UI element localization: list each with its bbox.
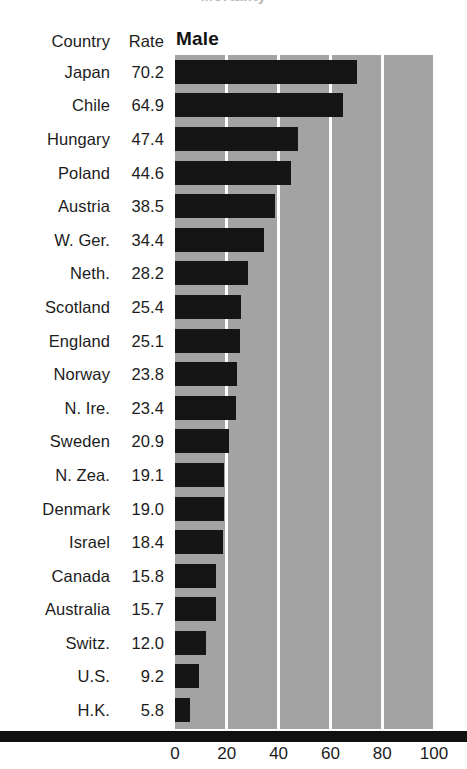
- row-rate-value: 5.8: [114, 701, 164, 720]
- row-country-label: Norway: [53, 365, 110, 384]
- row-country-label: Hungary: [47, 129, 110, 148]
- bar-slot: [175, 525, 434, 559]
- row-country-label: Denmark: [42, 499, 110, 518]
- bar: [175, 329, 240, 353]
- column-header-rate: Rate: [114, 31, 164, 50]
- clipped-title: Mortality: [0, 0, 467, 9]
- bar: [175, 60, 357, 84]
- table-row: Neth.28.2: [0, 257, 168, 291]
- x-tick-label-40: 40: [269, 744, 288, 764]
- table-row: Scotland25.4: [0, 290, 168, 324]
- table-row: N. Zea.19.1: [0, 458, 168, 492]
- row-rate-value: 12.0: [114, 633, 164, 652]
- axis-rule: [0, 731, 467, 742]
- bar: [175, 228, 264, 252]
- row-rate-value: 25.1: [114, 331, 164, 350]
- table-row: Norway23.8: [0, 357, 168, 391]
- table-row: Poland44.6: [0, 156, 168, 190]
- row-rate-value: 9.2: [114, 667, 164, 686]
- table-row: Australia15.7: [0, 593, 168, 627]
- bar: [175, 396, 236, 420]
- clipped-title-text: Mortality: [0, 0, 467, 4]
- row-rate-value: 38.5: [114, 197, 164, 216]
- x-tick-label-0: 0: [170, 744, 179, 764]
- table-row: Chile64.9: [0, 89, 168, 123]
- row-country-label: Scotland: [45, 297, 110, 316]
- row-rate-value: 18.4: [114, 533, 164, 552]
- row-country-label: Sweden: [50, 432, 110, 451]
- bar: [175, 530, 223, 554]
- row-rate-value: 15.8: [114, 566, 164, 585]
- row-country-label: Chile: [72, 96, 110, 115]
- table-row: Israel18.4: [0, 525, 168, 559]
- bar-slot: [175, 693, 434, 727]
- bar: [175, 161, 291, 185]
- bar-slot: [175, 660, 434, 694]
- row-country-label: Neth.: [70, 264, 110, 283]
- bar-slot: [175, 458, 434, 492]
- bar: [175, 564, 216, 588]
- bar-slot: [175, 189, 434, 223]
- row-country-label: Japan: [65, 62, 110, 81]
- bar-slot: [175, 425, 434, 459]
- row-rate-value: 70.2: [114, 62, 164, 81]
- row-rate-value: 19.0: [114, 499, 164, 518]
- x-tick-label-80: 80: [373, 744, 392, 764]
- bar: [175, 429, 229, 453]
- row-rate-value: 23.8: [114, 365, 164, 384]
- column-header-country: Country: [52, 31, 110, 50]
- bar: [175, 698, 190, 722]
- bar-slot: [175, 89, 434, 123]
- row-country-label: Canada: [52, 566, 110, 585]
- row-country-label: Switz.: [65, 633, 110, 652]
- row-country-label: H.K.: [78, 701, 111, 720]
- bar: [175, 261, 248, 285]
- bar-slot: [175, 626, 434, 660]
- row-rate-value: 23.4: [114, 398, 164, 417]
- row-rate-value: 28.2: [114, 264, 164, 283]
- table-row: W. Ger.34.4: [0, 223, 168, 257]
- bar: [175, 93, 343, 117]
- bar-slot: [175, 593, 434, 627]
- bar: [175, 295, 241, 319]
- bar-slot: [175, 257, 434, 291]
- bar-slot: [175, 122, 434, 156]
- row-rate-value: 15.7: [114, 600, 164, 619]
- x-tick-label-20: 20: [217, 744, 236, 764]
- row-country-label: U.S.: [78, 667, 111, 686]
- bar: [175, 127, 298, 151]
- bar-slot: [175, 492, 434, 526]
- bar-slot: [175, 391, 434, 425]
- table-row: Sweden20.9: [0, 425, 168, 459]
- row-rate-value: 25.4: [114, 297, 164, 316]
- row-country-label: W. Ger.: [54, 230, 110, 249]
- row-country-label: N. Ire.: [64, 398, 110, 417]
- row-country-label: Israel: [69, 533, 110, 552]
- row-rate-value: 64.9: [114, 96, 164, 115]
- bar-slot: [175, 156, 434, 190]
- row-rate-value: 20.9: [114, 432, 164, 451]
- bar-slot: [175, 55, 434, 89]
- bar: [175, 362, 237, 386]
- bar: [175, 664, 199, 688]
- table-row: Japan70.2: [0, 55, 168, 89]
- bar: [175, 497, 224, 521]
- bar: [175, 463, 224, 487]
- table-row: Switz.12.0: [0, 626, 168, 660]
- bar-slot: [175, 290, 434, 324]
- row-rate-value: 44.6: [114, 163, 164, 182]
- row-country-label: Austria: [58, 197, 110, 216]
- bar-series: [175, 55, 434, 729]
- table-row: Canada15.8: [0, 559, 168, 593]
- row-rate-value: 34.4: [114, 230, 164, 249]
- x-tick-label-100: 100: [420, 744, 448, 764]
- row-rate-value: 19.1: [114, 465, 164, 484]
- row-country-label: N. Zea.: [55, 465, 110, 484]
- table-header-row: Country Rate: [0, 26, 168, 55]
- row-rate-value: 47.4: [114, 129, 164, 148]
- bar: [175, 631, 206, 655]
- plot-area: [175, 55, 434, 729]
- row-country-label: England: [49, 331, 110, 350]
- table-row: England25.1: [0, 324, 168, 358]
- x-tick-label-60: 60: [321, 744, 340, 764]
